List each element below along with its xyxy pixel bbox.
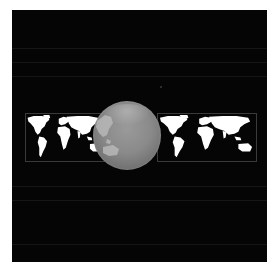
star-dot — [160, 86, 162, 88]
world-map-icon — [158, 114, 256, 161]
globe — [93, 101, 161, 170]
scanline — [12, 186, 267, 187]
scanline — [12, 48, 267, 49]
world-map-right — [157, 113, 257, 162]
scanline — [12, 200, 267, 201]
scanline — [12, 244, 267, 245]
globe-highlight — [103, 104, 151, 126]
scanline — [12, 76, 267, 77]
image-frame — [12, 10, 267, 262]
scanline — [12, 62, 267, 63]
